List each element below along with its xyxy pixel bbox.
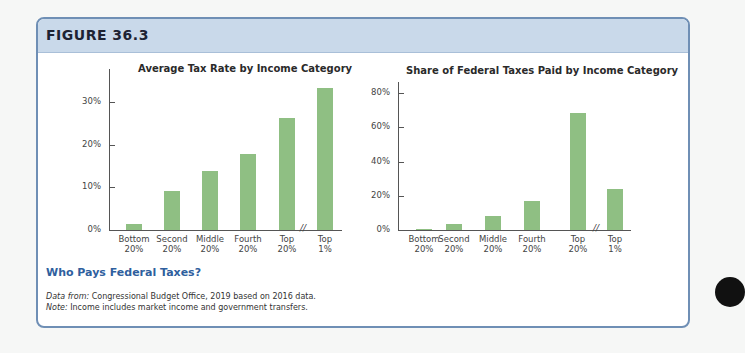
y-tick <box>398 127 404 128</box>
bar-fourth-20- <box>240 154 256 230</box>
axis-break-mark: // <box>300 223 306 233</box>
income-note: Note: Income includes market income and … <box>46 303 308 312</box>
note-text: Income includes market income and govern… <box>68 303 308 312</box>
note-prefix: Note: <box>46 303 68 312</box>
x-axis <box>109 230 342 231</box>
y-tick <box>398 230 404 231</box>
axis-break-mark: // <box>593 223 599 233</box>
bar-top-20- <box>570 113 586 230</box>
bar-bottom-20- <box>126 224 142 230</box>
y-tick-label: 0% <box>67 224 101 234</box>
y-tick <box>109 187 115 188</box>
x-category-label: Second20% <box>432 234 476 254</box>
bar-second-20- <box>446 224 462 230</box>
x-category-label: Top1% <box>303 234 347 254</box>
y-tick-label: 0% <box>356 224 390 234</box>
caption-title: Who Pays Federal Taxes? <box>46 266 201 279</box>
chart-title: Average Tax Rate by Income Category <box>138 63 352 74</box>
y-tick-label: 20% <box>356 190 390 200</box>
figure-box: FIGURE 36.3 Average Tax Rate by Income C… <box>36 17 690 328</box>
y-tick <box>109 230 115 231</box>
bar-top-20- <box>279 118 295 230</box>
x-category-label: Top1% <box>593 234 637 254</box>
source-note: Data from: Congressional Budget Office, … <box>46 292 316 301</box>
y-tick-label: 60% <box>356 121 390 131</box>
bar-top-1- <box>607 189 623 230</box>
y-tick-label: 40% <box>356 156 390 166</box>
source-text: Congressional Budget Office, 2019 based … <box>89 292 316 301</box>
bar-second-20- <box>164 191 180 230</box>
source-prefix: Data from: <box>46 292 89 301</box>
y-tick <box>398 93 404 94</box>
chart-title: Share of Federal Taxes Paid by Income Ca… <box>406 65 678 76</box>
bar-bottom-20- <box>416 229 432 230</box>
figure-label: FIGURE 36.3 <box>46 27 149 43</box>
bar-middle-20- <box>485 216 501 230</box>
page-marker-dot <box>715 277 745 307</box>
x-category-label: Middle20% <box>471 234 515 254</box>
y-tick <box>109 145 115 146</box>
y-tick-label: 20% <box>67 139 101 149</box>
y-tick-label: 80% <box>356 87 390 97</box>
x-category-label: Fourth20% <box>226 234 270 254</box>
y-axis <box>109 69 110 230</box>
y-tick-label: 10% <box>67 181 101 191</box>
y-tick <box>398 162 404 163</box>
bar-top-1- <box>317 88 333 230</box>
y-axis <box>398 82 399 230</box>
x-category-label: Fourth20% <box>510 234 554 254</box>
bar-fourth-20- <box>524 201 540 230</box>
y-tick <box>398 196 404 197</box>
y-tick-label: 30% <box>67 96 101 106</box>
figure-header: FIGURE 36.3 <box>38 19 688 53</box>
y-tick <box>109 102 115 103</box>
bar-middle-20- <box>202 171 218 230</box>
